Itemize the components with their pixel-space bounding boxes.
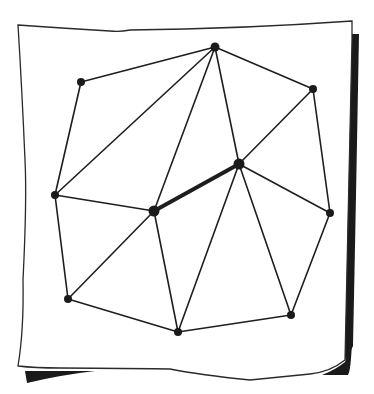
diagram-canvas [0,0,374,394]
node-B [211,43,220,52]
node-A [77,78,85,86]
node-I [174,328,182,336]
node-E [149,206,160,217]
node-H [64,295,72,303]
node-F [51,191,59,199]
node-G [326,209,334,217]
node-J [287,311,295,319]
node-C [309,85,317,93]
node-D [234,159,245,170]
